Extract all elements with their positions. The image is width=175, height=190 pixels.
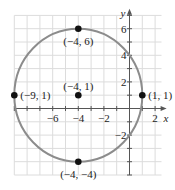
x-axis-label: x — [163, 112, 169, 124]
y-tick-label: 2 — [121, 76, 127, 88]
x-tick-label: −2 — [98, 112, 110, 124]
point-label: (−4, −4) — [60, 168, 97, 181]
data-point — [75, 92, 82, 99]
x-tick-label: −4 — [72, 112, 84, 124]
point-label: (−9, 1) — [20, 89, 50, 102]
y-tick-label: −2 — [115, 129, 127, 141]
x-tick-label: −6 — [47, 112, 59, 124]
point-label: (1, 1) — [148, 89, 172, 102]
y-axis-label: y — [120, 7, 126, 19]
data-point — [139, 92, 146, 99]
data-point — [11, 92, 18, 99]
circle-graph: −6−4−22642−2 (−4, 6)(−9, 1)(−4, 1)(1, 1)… — [0, 0, 175, 190]
point-label: (−4, 6) — [63, 35, 93, 48]
data-point — [75, 158, 82, 165]
point-label: (−4, 1) — [63, 80, 93, 93]
x-tick-label: 2 — [152, 112, 158, 124]
y-tick-label: 6 — [121, 23, 127, 35]
data-point — [75, 25, 82, 32]
